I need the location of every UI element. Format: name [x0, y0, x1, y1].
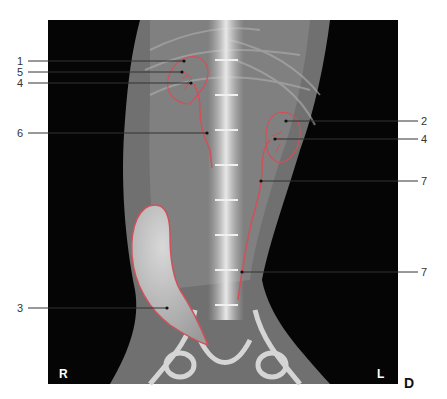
label-4-right-kidney: 4 — [17, 77, 23, 89]
label-7-upper: 7 — [421, 175, 427, 187]
label-2: 2 — [421, 115, 427, 127]
spine — [208, 20, 244, 320]
left-side-marker: L — [377, 367, 384, 381]
view-label: D — [404, 375, 414, 391]
radiograph-figure — [0, 0, 447, 399]
label-7-lower: 7 — [421, 266, 427, 278]
right-side-marker: R — [59, 367, 68, 381]
label-6: 6 — [17, 127, 23, 139]
label-4-left-kidney: 4 — [421, 133, 427, 145]
label-3: 3 — [17, 302, 23, 314]
